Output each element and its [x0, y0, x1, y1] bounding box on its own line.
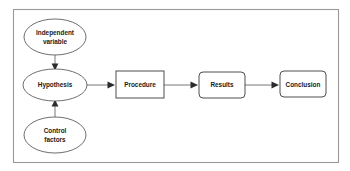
node-label-line1: Hypothesis	[38, 81, 73, 89]
flowchart-canvas: Independent variable Hypothesis Control …	[0, 0, 350, 171]
node-results[interactable]: Results	[199, 72, 245, 98]
ellipse-shape	[24, 19, 86, 55]
node-conclusion[interactable]: Conclusion	[280, 71, 326, 97]
node-label-line1: Control	[44, 127, 67, 134]
ellipse-shape	[24, 117, 86, 153]
node-hypothesis[interactable]: Hypothesis	[23, 69, 87, 101]
node-procedure[interactable]: Procedure	[116, 71, 164, 98]
node-label-line2: factors	[44, 136, 66, 143]
node-label-line1: Independent	[36, 29, 75, 37]
node-label-line1: Conclusion	[286, 81, 321, 88]
node-label-line1: Procedure	[124, 81, 156, 88]
node-label-line1: Results	[210, 81, 234, 88]
node-control-factors[interactable]: Control factors	[24, 117, 86, 153]
node-label-line2: variable	[43, 38, 68, 45]
flowchart-diagram: Independent variable Hypothesis Control …	[0, 0, 350, 171]
node-independent-variable[interactable]: Independent variable	[24, 19, 86, 55]
